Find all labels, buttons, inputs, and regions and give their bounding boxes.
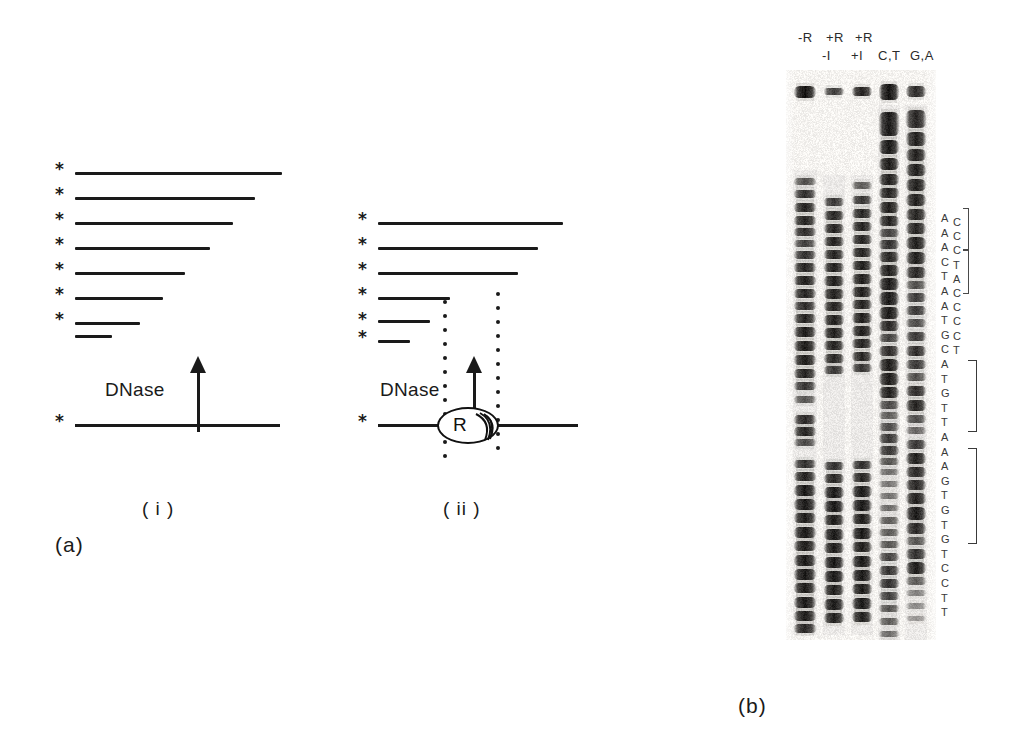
panel-b-autoradiograph: -R +R +R -I +I C,T G,A AAACTAATGCATGTTAA… xyxy=(0,0,1017,753)
sequence-letter: A xyxy=(941,285,948,297)
footprint-bracket-4 xyxy=(968,448,977,544)
sequence-letter: A xyxy=(941,460,948,472)
lane-header-CT-ladder: C,T xyxy=(878,48,900,63)
sequence-letter-inset: C xyxy=(953,315,961,327)
sequence-letter: A xyxy=(941,431,948,443)
lane-header-GA-ladder: G,A xyxy=(910,48,934,63)
sequence-letter: G xyxy=(941,475,950,487)
sequence-letter: T xyxy=(941,270,948,282)
sequence-letter: G xyxy=(941,387,950,399)
sequence-letter-inset: T xyxy=(953,259,960,271)
sequence-letter: G xyxy=(941,329,950,341)
sequence-letter: T xyxy=(941,489,948,501)
sequence-letter: C xyxy=(941,577,949,589)
sequence-letter-inset: C xyxy=(953,216,961,228)
sequence-letter: T xyxy=(941,592,948,604)
sequence-letter-inset: A xyxy=(953,273,960,285)
sequence-letter: T xyxy=(941,402,948,414)
sequence-letter: T xyxy=(941,373,948,385)
sequence-letter: C xyxy=(941,256,949,268)
footprint-bracket-1 xyxy=(963,208,969,250)
sequence-letter: T xyxy=(941,519,948,531)
figure-canvas: * * * * * * * * DNase ( i ) (a) * * * * … xyxy=(0,0,1017,753)
sequence-letter: G xyxy=(941,504,950,516)
sequence-letter-inset: C xyxy=(953,330,961,342)
sequence-letter: A xyxy=(941,227,948,239)
footprint-bracket-3 xyxy=(968,360,977,432)
sequence-letter: A xyxy=(941,300,948,312)
sequence-letter-inset: C xyxy=(953,230,961,242)
sequence-letter-inset: C xyxy=(953,301,961,313)
sequence-letter: A xyxy=(941,446,948,458)
lane-header-plus-R-1: +R xyxy=(826,30,844,45)
sequence-letter: G xyxy=(941,533,950,545)
sequence-letter: T xyxy=(941,606,948,618)
sequence-letter-inset: T xyxy=(953,344,960,356)
lane-header-minus-R: -R xyxy=(798,30,813,45)
sequence-letter-inset: C xyxy=(953,244,961,256)
sequence-letter: T xyxy=(941,416,948,428)
sequence-letter: T xyxy=(941,548,948,560)
sequence-letter: C xyxy=(941,562,949,574)
footprint-bracket-2 xyxy=(963,250,969,294)
sequence-letter-inset: C xyxy=(953,287,961,299)
lane-header-plus-R-2: +R xyxy=(855,30,873,45)
sequence-letter: C xyxy=(941,343,949,355)
sequence-letter: A xyxy=(941,212,948,224)
lane-header-plus-I: +I xyxy=(851,48,863,63)
sequence-letter: A xyxy=(941,241,948,253)
lane-header-minus-I: -I xyxy=(822,48,831,63)
sequence-letter: A xyxy=(941,358,948,370)
sequence-letter: T xyxy=(941,314,948,326)
panel-b-label: (b) xyxy=(738,694,767,718)
gel-autoradiograph-image xyxy=(786,70,936,640)
